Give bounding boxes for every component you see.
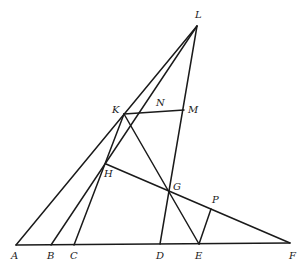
point-label-k: K — [111, 104, 120, 115]
point-label-d: D — [155, 250, 164, 261]
diagram-canvas: LKNMHGPABCDEF — [0, 0, 304, 272]
point-label-e: E — [194, 250, 203, 261]
segment-b-l — [51, 26, 197, 245]
point-label-m: M — [187, 104, 199, 115]
segment-p-e — [199, 209, 211, 244]
segment-h-f — [106, 164, 290, 243]
segment-l-d — [160, 26, 197, 244]
segment-c-k — [74, 114, 124, 245]
point-label-b: B — [46, 250, 54, 261]
geometry-diagram: LKNMHGPABCDEF — [0, 0, 304, 272]
point-label-h: H — [103, 168, 113, 179]
segment-k-m — [124, 110, 184, 114]
point-label-c: C — [70, 250, 78, 261]
point-label-f: F — [288, 250, 297, 261]
point-label-l: L — [194, 9, 202, 20]
segment-a-l — [16, 26, 197, 245]
point-label-p: P — [211, 194, 219, 205]
segments-group — [16, 26, 290, 245]
point-label-g: G — [173, 181, 181, 192]
point-labels-group: LKNMHGPABCDEF — [10, 9, 297, 261]
point-label-a: A — [10, 250, 18, 261]
segment-k-e — [124, 114, 199, 244]
point-label-n: N — [155, 97, 166, 108]
segment-a-f — [16, 243, 290, 245]
